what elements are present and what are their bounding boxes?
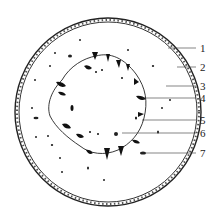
- label-7: 7: [200, 148, 206, 159]
- epidermis: [15, 18, 201, 206]
- vascular-ring: [49, 55, 146, 154]
- label-5: 5: [200, 115, 206, 126]
- cortex-cells: [31, 39, 171, 181]
- label-6: 6: [200, 128, 206, 139]
- label-3: 3: [200, 81, 206, 92]
- label-1: 1: [200, 43, 206, 54]
- stem-cross-section-diagram: [0, 0, 216, 212]
- label-4: 4: [200, 93, 206, 104]
- leader-lines: [122, 48, 196, 153]
- vascular-bundles: [56, 52, 146, 160]
- label-2: 2: [200, 62, 206, 73]
